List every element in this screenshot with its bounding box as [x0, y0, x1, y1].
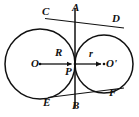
center-point-O [39, 63, 42, 66]
point-label-O: O [31, 58, 39, 69]
point-label-D: D [112, 13, 120, 24]
tangency-point-P [74, 63, 77, 66]
segment-label-r: r [89, 49, 93, 59]
center-point-O-prime [103, 63, 106, 66]
geometry-figure: C A D O R r O' P E B F [0, 0, 139, 117]
point-label-E: E [43, 97, 50, 108]
point-label-P: P [65, 66, 72, 77]
point-label-C: C [42, 6, 49, 17]
segment-label-R: R [55, 47, 62, 57]
point-label-A: A [72, 2, 79, 13]
point-label-F: F [109, 87, 116, 98]
point-label-O-prime: O' [106, 58, 117, 69]
point-label-B: B [72, 100, 79, 111]
